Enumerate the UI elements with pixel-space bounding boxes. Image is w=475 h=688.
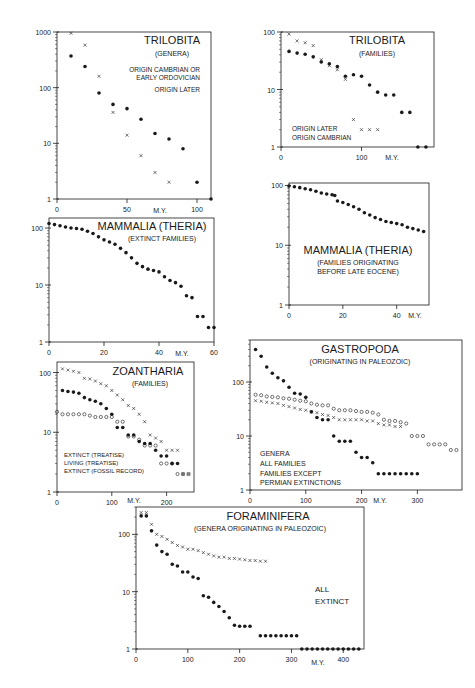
legend-label: EARLY ORDOVICIAN bbox=[136, 74, 200, 81]
x-axis-label: M.Y. bbox=[408, 312, 422, 319]
y-tick-label: 1 bbox=[39, 339, 43, 346]
y-tick-label: 1 bbox=[47, 196, 51, 203]
panel-title: FORAMINIFERA bbox=[226, 510, 310, 522]
x-tick-label: 40 bbox=[155, 349, 163, 356]
legend-label: GENERA bbox=[260, 450, 290, 457]
x-axis-label: M.Y. bbox=[127, 497, 141, 504]
y-tick-label: 10 bbox=[236, 433, 244, 440]
x-tick-label: 200 bbox=[234, 656, 246, 663]
x-tick-label: 300 bbox=[286, 656, 298, 663]
x-tick-label: 100 bbox=[191, 206, 203, 213]
x-tick-label: 0 bbox=[55, 206, 59, 213]
legend-label: LIVING (TREATISE) bbox=[64, 460, 118, 466]
x-axis-label: M.Y. bbox=[311, 659, 325, 666]
legend-label: PERMIAN EXTINCTIONS bbox=[260, 479, 341, 486]
x-tick-label: 200 bbox=[356, 497, 368, 504]
x-tick-label: 50 bbox=[123, 206, 131, 213]
x-tick-label: 20 bbox=[100, 349, 108, 356]
y-tick-label: 1 bbox=[47, 489, 51, 496]
panel-subtitle: (ORIGINATING IN PALEOZOIC) bbox=[310, 358, 411, 366]
panel-subtitle: (FAMILIES) bbox=[359, 50, 395, 58]
y-tick-label: 1 bbox=[126, 646, 130, 653]
x-axis-label: M.Y. bbox=[153, 207, 167, 214]
panel-mammalia-eocene: MAMMALIA (THERIA) (FAMILIES ORIGINATING … bbox=[304, 244, 422, 319]
y-tick-label: 10 bbox=[35, 282, 43, 289]
y-tick-label: 100 bbox=[271, 182, 283, 189]
series-origin-cambrian bbox=[288, 33, 380, 132]
x-axis-label: M.Y. bbox=[385, 154, 399, 161]
series-families-originating-before-late-eocene bbox=[287, 184, 425, 233]
y-tick-label: 1 bbox=[271, 144, 275, 151]
y-tick-label: 100 bbox=[232, 379, 244, 386]
panel-subtitle: (GENERA) bbox=[155, 50, 189, 58]
y-tick-label: 100 bbox=[39, 370, 51, 377]
panel-mammalia-extinct: MAMMALIA (THERIA) (EXTINCT FAMILIES) M.Y… bbox=[98, 220, 207, 357]
legend-label: FAMILIES EXCEPT bbox=[260, 470, 322, 477]
panel-foraminifera: FORAMINIFERA (GENERA ORIGINATING IN PALE… bbox=[194, 510, 349, 666]
x-tick-label: 60 bbox=[210, 349, 218, 356]
legend-label: EXTINCT (FOSSIL RECORD) bbox=[64, 468, 144, 474]
panel-title: ZOANTHARIA bbox=[113, 365, 185, 377]
x-tick-label: 0 bbox=[55, 499, 59, 506]
survivorship-figure: TRILOBITA (GENERA) ORIGIN CAMBRIAN OR EA… bbox=[0, 0, 475, 688]
x-tick-label: 0 bbox=[287, 312, 291, 319]
x-tick-label: 20 bbox=[339, 312, 347, 319]
panel-title: TRILOBITA bbox=[144, 34, 201, 46]
legend-label: ALL bbox=[315, 585, 330, 594]
x-tick-label: 100 bbox=[356, 154, 368, 161]
x-axis-label: M.Y. bbox=[373, 497, 387, 504]
x-tick-label: 40 bbox=[393, 312, 401, 319]
panel-subtitle: BEFORE LATE EOCENE) bbox=[317, 268, 399, 276]
chart-zoantharia-families: 1101000100200 bbox=[39, 362, 194, 506]
panel-title: MAMMALIA (THERIA) bbox=[304, 244, 413, 256]
y-tick-label: 10 bbox=[275, 242, 283, 249]
plot-frame bbox=[57, 32, 211, 199]
legend-label: ORIGIN LATER bbox=[155, 86, 201, 93]
panel-title: TRILOBITA bbox=[349, 34, 406, 46]
panel-trilobita-genera: TRILOBITA (GENERA) ORIGIN CAMBRIAN OR EA… bbox=[129, 34, 200, 214]
y-tick-label: 10 bbox=[43, 429, 51, 436]
legend-label: ORIGIN CAMBRIAN OR bbox=[129, 66, 200, 73]
legend-label: EXTINCT (TREATISE) bbox=[64, 452, 124, 458]
x-axis-label: M.Y. bbox=[175, 350, 189, 357]
panel-title: GASTROPODA bbox=[321, 343, 399, 355]
y-tick-label: 10 bbox=[267, 87, 275, 94]
panel-gastropoda: GASTROPODA (ORIGINATING IN PALEOZOIC) GE… bbox=[260, 343, 410, 504]
x-tick-label: 0 bbox=[47, 349, 51, 356]
x-tick-label: 0 bbox=[279, 154, 283, 161]
chart-trilobita-families: 1101000100 bbox=[263, 29, 434, 161]
y-tick-label: 100 bbox=[31, 225, 43, 232]
x-tick-label: 0 bbox=[134, 656, 138, 663]
panel-trilobita-families: TRILOBITA (FAMILIES) ORIGIN LATER ORIGIN… bbox=[292, 34, 406, 161]
x-tick-label: 100 bbox=[300, 497, 312, 504]
y-tick-label: 100 bbox=[118, 531, 130, 538]
x-tick-label: 200 bbox=[161, 499, 173, 506]
x-tick-label: 300 bbox=[412, 497, 424, 504]
series-extinct bbox=[139, 514, 360, 651]
y-tick-label: 1000 bbox=[35, 29, 51, 36]
panel-subtitle: (FAMILIES) bbox=[132, 380, 168, 388]
y-tick-label: 100 bbox=[39, 85, 51, 92]
y-tick-label: 10 bbox=[122, 589, 130, 596]
x-tick-label: 100 bbox=[106, 499, 118, 506]
panel-title: MAMMALIA (THERIA) bbox=[98, 220, 207, 232]
y-tick-label: 1 bbox=[240, 487, 244, 494]
panel-subtitle: (GENERA ORIGINATING IN PALEOZOIC) bbox=[194, 525, 326, 533]
series-all-families bbox=[254, 393, 458, 451]
panel-subtitle: (EXTINCT FAMILIES) bbox=[128, 235, 196, 243]
legend-label: ALL FAMILIES bbox=[260, 460, 306, 467]
x-tick-label: 400 bbox=[337, 656, 349, 663]
x-tick-label: 0 bbox=[248, 497, 252, 504]
legend-label: ORIGIN LATER bbox=[292, 125, 338, 132]
y-tick-label: 100 bbox=[263, 29, 275, 36]
legend-label: EXTINCT bbox=[315, 597, 349, 606]
legend-label: ORIGIN CAMBRIAN bbox=[292, 134, 352, 141]
y-tick-label: 10 bbox=[43, 140, 51, 147]
y-tick-label: 1 bbox=[279, 302, 283, 309]
panel-subtitle: (FAMILIES ORIGINATING bbox=[317, 259, 399, 267]
x-tick-label: 100 bbox=[182, 656, 194, 663]
panel-zoantharia: ZOANTHARIA (FAMILIES) EXTINCT (TREATISE)… bbox=[64, 365, 184, 504]
